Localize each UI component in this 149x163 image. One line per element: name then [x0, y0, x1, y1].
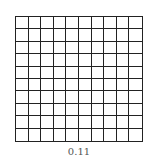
grid-cell — [79, 91, 92, 103]
grid-cell — [41, 79, 54, 91]
grid-cell — [92, 67, 105, 79]
grid-cell — [29, 29, 42, 41]
grid-cell — [41, 91, 54, 103]
grid-cell — [79, 116, 92, 128]
grid-cell — [29, 42, 42, 54]
grid-cell — [79, 29, 92, 41]
grid-cell — [54, 42, 67, 54]
grid-cell — [16, 29, 29, 41]
grid-cell — [92, 79, 105, 91]
grid-cell — [104, 91, 117, 103]
grid-cell — [29, 79, 42, 91]
grid-cell — [79, 42, 92, 54]
grid-cell — [66, 42, 79, 54]
grid-cell — [41, 67, 54, 79]
grid-cell — [117, 17, 130, 29]
grid-cell — [16, 116, 29, 128]
grid-cell — [41, 42, 54, 54]
grid-cell — [41, 17, 54, 29]
grid-cell — [16, 17, 29, 29]
grid-cell — [79, 67, 92, 79]
grid-cell — [66, 116, 79, 128]
grid-cell — [104, 79, 117, 91]
grid-cell — [16, 104, 29, 116]
grid-cell — [92, 91, 105, 103]
grid-cell — [129, 67, 142, 79]
grid-cell — [104, 104, 117, 116]
grid-cell — [16, 79, 29, 91]
grid-cell — [92, 29, 105, 41]
grid-cell — [117, 67, 130, 79]
grid-cell — [66, 129, 79, 141]
grid-cell — [54, 116, 67, 128]
grid-cell — [129, 17, 142, 29]
grid-cell — [117, 29, 130, 41]
grid-cell — [66, 91, 79, 103]
grid-cell — [79, 79, 92, 91]
grid-cell — [41, 29, 54, 41]
grid-cell — [117, 129, 130, 141]
grid-cell — [16, 54, 29, 66]
grid-cell — [104, 54, 117, 66]
grid-cell — [66, 29, 79, 41]
grid-cell — [16, 67, 29, 79]
grid-cell — [104, 29, 117, 41]
grid-cell — [54, 67, 67, 79]
grid-cell — [92, 129, 105, 141]
grid-cell — [29, 116, 42, 128]
grid-cell — [117, 91, 130, 103]
grid-cell — [129, 54, 142, 66]
grid-cell — [16, 42, 29, 54]
grid-cell — [54, 91, 67, 103]
grid-cell — [66, 17, 79, 29]
grid-cell — [92, 42, 105, 54]
grid-cell — [79, 54, 92, 66]
grid-cell — [29, 17, 42, 29]
grid-cell — [41, 54, 54, 66]
grid-cell — [29, 129, 42, 141]
grid-cell — [129, 29, 142, 41]
grid-cell — [41, 129, 54, 141]
grid-cell — [79, 129, 92, 141]
grid-cell — [129, 129, 142, 141]
grid-cell — [79, 17, 92, 29]
grid-cell — [117, 42, 130, 54]
grid-cell — [54, 104, 67, 116]
grid-cell — [117, 79, 130, 91]
grid-cell — [29, 67, 42, 79]
grid-cell — [92, 17, 105, 29]
grid-cell — [104, 129, 117, 141]
grid-cell — [41, 116, 54, 128]
grid-cell — [129, 116, 142, 128]
grid-cell — [54, 129, 67, 141]
grid-cell — [66, 67, 79, 79]
grid-cell — [29, 91, 42, 103]
grid-cell — [66, 54, 79, 66]
grid-cell — [129, 42, 142, 54]
grid-cell — [129, 91, 142, 103]
grid-cell — [92, 116, 105, 128]
grid-cell — [54, 17, 67, 29]
grid-cell — [41, 104, 54, 116]
grid-cell — [129, 79, 142, 91]
grid-cell — [129, 104, 142, 116]
grid-cell — [54, 29, 67, 41]
grid-cell — [16, 91, 29, 103]
grid-cell — [104, 42, 117, 54]
grid-cell — [92, 104, 105, 116]
grid-cell — [66, 104, 79, 116]
grid-cell — [29, 54, 42, 66]
grid-cell — [117, 54, 130, 66]
grid-value-label: 0.11 — [15, 146, 143, 157]
grid-cell — [29, 104, 42, 116]
hundred-grid — [15, 16, 143, 142]
grid-cell — [104, 17, 117, 29]
grid-cell — [104, 67, 117, 79]
grid-cell — [54, 79, 67, 91]
grid-cell — [117, 116, 130, 128]
grid-cell — [54, 54, 67, 66]
grid-cell — [117, 104, 130, 116]
grid-cell — [92, 54, 105, 66]
grid-cell — [16, 129, 29, 141]
grid-cell — [79, 104, 92, 116]
